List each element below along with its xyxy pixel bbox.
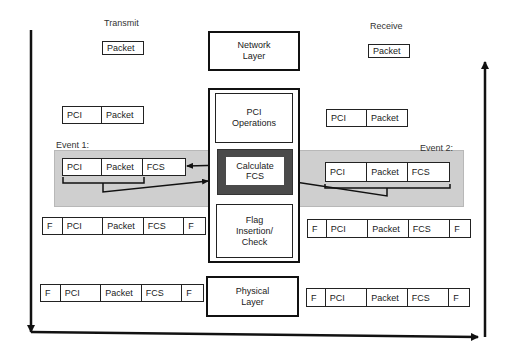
rx-phys-packet: Packet bbox=[367, 289, 407, 306]
tx-phys-flag-end: F bbox=[182, 285, 203, 301]
tx-pci-packet: PCI Packet bbox=[62, 106, 144, 124]
flag-insertion-text: Flag Insertion/ Check bbox=[236, 215, 273, 248]
receive-label: Receive bbox=[370, 21, 403, 31]
event2-label: Event 2: bbox=[420, 143, 453, 153]
tx-flag-end: F bbox=[184, 218, 205, 234]
rx-phys-pci: PCI bbox=[326, 289, 367, 306]
rx-flag-packet: Packet bbox=[368, 220, 408, 237]
physical-layer-box: Physical Layer bbox=[206, 276, 299, 317]
rx-physical-frame: F PCI Packet FCS F bbox=[306, 288, 470, 307]
event1-label: Event 1: bbox=[56, 140, 89, 150]
tx-flag-start: F bbox=[43, 218, 63, 234]
rx-pci-packet: PCI Packet bbox=[326, 109, 408, 127]
calculate-fcs-box: Calculate FCS bbox=[226, 157, 284, 185]
tx-flagged-frame: F PCI Packet FCS F bbox=[42, 217, 206, 235]
tx-flag-packet: Packet bbox=[103, 218, 143, 234]
rx-flag-start: F bbox=[308, 220, 327, 237]
tx-flag-pci: PCI bbox=[63, 218, 103, 234]
rx-flagged-frame: F PCI Packet FCS F bbox=[307, 219, 471, 238]
pci-operations-text: PCI Operations bbox=[232, 107, 276, 129]
tx-pci-cell: PCI bbox=[63, 107, 102, 123]
tx-event-fcs: FCS bbox=[143, 159, 185, 175]
bottom-arrow bbox=[31, 332, 478, 337]
rx-packet-cell: Packet bbox=[367, 110, 407, 126]
tx-flag-fcs: FCS bbox=[144, 218, 184, 234]
rx-event-frame: PCI Packet FCS bbox=[325, 162, 450, 182]
rx-flag-end: F bbox=[450, 220, 470, 237]
rx-phys-flag-end: F bbox=[449, 289, 469, 306]
rx-event-packet: Packet bbox=[367, 163, 407, 181]
tx-physical-frame: F PCI Packet FCS F bbox=[40, 284, 204, 302]
network-layer-box: Network Layer bbox=[208, 31, 300, 71]
tx-phys-fcs: FCS bbox=[142, 285, 182, 301]
rx-pci-cell: PCI bbox=[327, 110, 367, 126]
tx-packet-cell: Packet bbox=[103, 42, 143, 54]
physical-layer-text: Physical Layer bbox=[236, 286, 270, 308]
calculate-fcs-text: Calculate FCS bbox=[236, 161, 274, 181]
tx-phys-pci: PCI bbox=[61, 285, 101, 301]
rx-flag-fcs: FCS bbox=[409, 220, 450, 237]
rx-phys-fcs: FCS bbox=[408, 289, 449, 306]
tx-event-packet: Packet bbox=[102, 159, 142, 175]
tx-event-frame: PCI Packet FCS bbox=[62, 158, 186, 176]
tx-event-pci: PCI bbox=[63, 159, 102, 175]
rx-packet: Packet bbox=[368, 44, 410, 58]
tx-packet-cell: Packet bbox=[102, 107, 143, 123]
pci-operations-box: PCI Operations bbox=[215, 93, 293, 143]
network-layer-text: Network Layer bbox=[237, 40, 270, 62]
rx-flag-pci: PCI bbox=[327, 220, 368, 237]
rx-event-pci: PCI bbox=[326, 163, 367, 181]
rx-phys-flag-start: F bbox=[307, 289, 326, 306]
rx-packet-cell: Packet bbox=[369, 45, 409, 57]
transmit-label: Transmit bbox=[104, 18, 139, 28]
flag-insertion-box: Flag Insertion/ Check bbox=[216, 204, 293, 258]
tx-phys-flag-start: F bbox=[41, 285, 61, 301]
tx-packet: Packet bbox=[102, 41, 144, 55]
rx-event-fcs: FCS bbox=[408, 163, 449, 181]
tx-phys-packet: Packet bbox=[101, 285, 141, 301]
